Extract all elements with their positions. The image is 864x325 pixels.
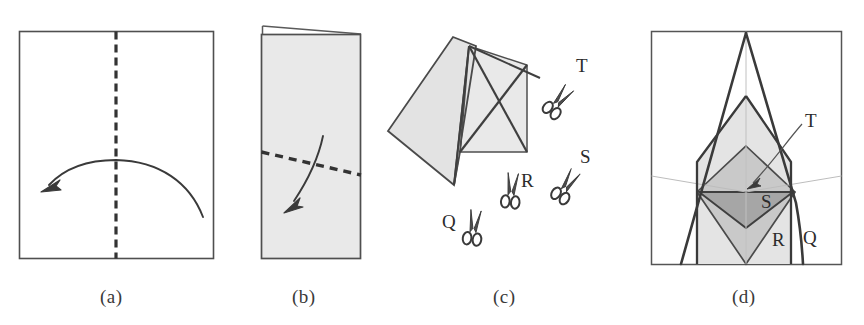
- panel-caption-b: (b): [292, 286, 316, 308]
- region-label-R: R: [772, 229, 785, 250]
- cut-label-T: T: [576, 55, 588, 76]
- cut-label-R: R: [521, 170, 534, 191]
- panel-c: T S R Q (c): [380, 0, 620, 325]
- panel-caption-d: (d): [732, 286, 756, 308]
- panel-caption-a: (a): [100, 286, 123, 308]
- cut-label-Q: Q: [442, 211, 456, 232]
- panel-b: (b): [230, 0, 380, 325]
- fold-flap-edge-b: [263, 26, 362, 34]
- region-label-Q: Q: [803, 227, 817, 248]
- scissors-icon-S: [549, 166, 583, 206]
- paper-sheet-a: [20, 32, 214, 259]
- scissors-icon-Q: [462, 209, 485, 246]
- panel-d-graphic: T S R Q: [620, 0, 864, 325]
- scissors-icon-T: [541, 82, 577, 121]
- panel-a: (a): [0, 0, 230, 325]
- panel-caption-c: (c): [493, 286, 516, 308]
- cut-label-S: S: [580, 146, 591, 167]
- region-label-T: T: [805, 110, 817, 131]
- scissors-icon-R: [500, 172, 522, 209]
- paper-sheet-b: [262, 35, 361, 259]
- panel-a-graphic: [0, 0, 230, 325]
- panel-c-graphic: T S R Q: [380, 0, 620, 325]
- figure-container: (a) (b): [0, 0, 864, 325]
- panel-b-graphic: [230, 0, 380, 325]
- panel-d: T S R Q (d): [620, 0, 864, 325]
- region-label-S: S: [761, 191, 772, 212]
